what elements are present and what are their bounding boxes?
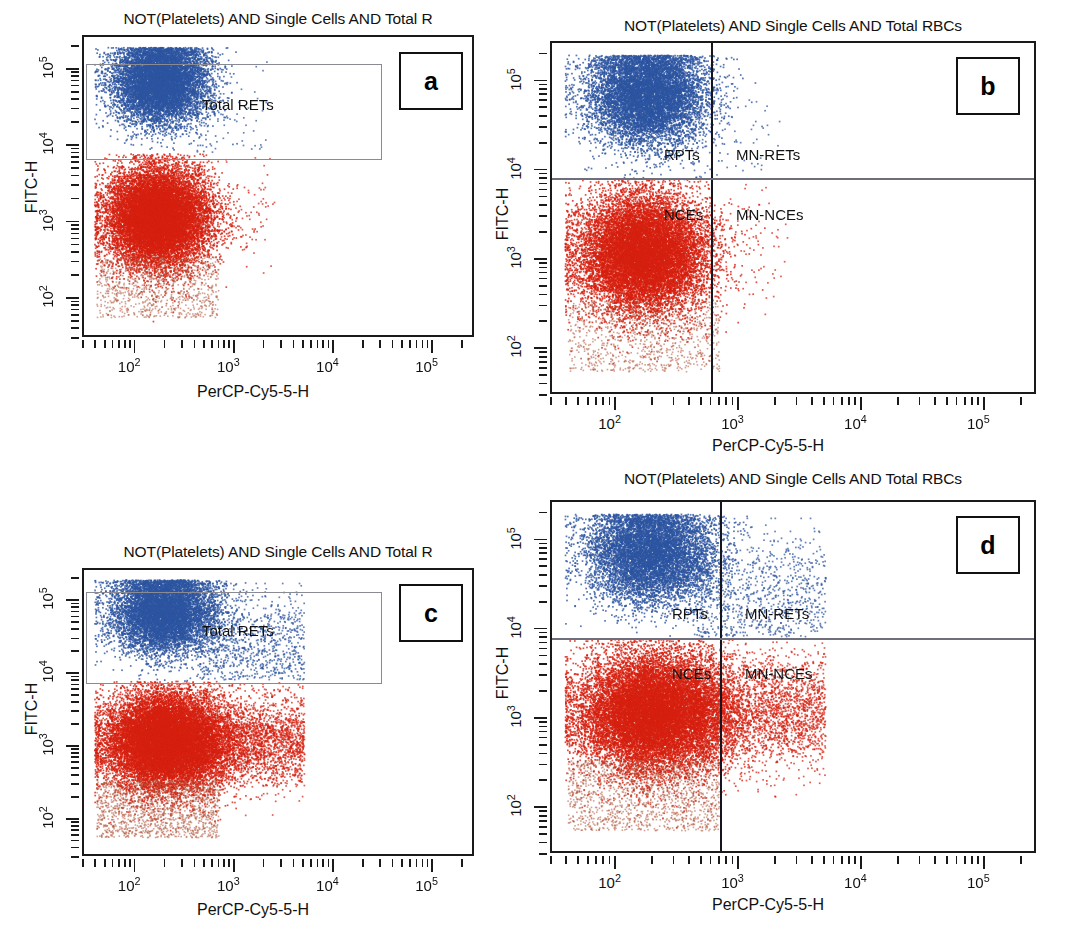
yaxis-tick-label: 105 [505,59,524,99]
xaxis-tick [860,397,862,410]
yaxis-tick [66,68,79,70]
panel-d-title: NOT(Platelets) AND Single Cells AND Tota… [550,470,1036,488]
xaxis-tick [223,340,225,348]
panel-d-quadrant-hline[interactable] [552,638,1034,640]
xaxis-tick [416,340,418,348]
xaxis-tick [587,856,589,864]
xaxis-tick [461,859,463,867]
panel-d-quadrant-vline[interactable] [720,502,722,851]
xaxis-tick [94,340,96,348]
yaxis-tick [71,783,79,785]
xaxis-tick [401,340,403,348]
yaxis-tick [539,726,547,728]
xaxis-tick-label: 104 [844,872,867,891]
yaxis-tick [71,224,79,226]
yaxis-tick [539,648,547,650]
xaxis-tick [263,859,265,867]
yaxis-tick [539,374,547,376]
yaxis-tick [539,810,547,812]
panel-d-badge: d [956,516,1020,574]
xaxis-tick [392,859,394,867]
xaxis-tick [956,397,958,405]
yaxis-tick [534,169,547,171]
xaxis-tick [971,397,973,405]
yaxis-tick [539,196,547,198]
yaxis-tick [539,177,547,179]
yaxis-tick [539,267,547,269]
yaxis-tick [71,161,79,163]
yaxis-tick-label: 102 [505,327,524,367]
yaxis-tick [539,53,547,55]
xaxis-tick [833,856,835,864]
yaxis-tick [71,75,79,77]
xaxis-tick [688,397,690,405]
yaxis-tick [539,543,547,545]
yaxis-tick [539,285,547,287]
yaxis-tick-label: 103 [37,725,56,765]
xaxis-tick [577,856,579,864]
xaxis-tick [609,397,611,405]
xaxis-tick [614,856,616,869]
panel-d-xaxis-label: PerCP-Cy5-5-H [712,896,824,914]
xaxis-tick [164,340,166,348]
yaxis-tick [539,272,547,274]
panel-c-badge: c [399,584,463,642]
panel-a-total-rets-gate-label: Total RETs [202,96,274,113]
xaxis-tick [322,859,324,867]
xaxis-tick [934,397,936,405]
panel-c-total-rets-gate-label: Total RETs [202,622,274,639]
yaxis-tick [71,825,79,827]
yaxis-tick [66,818,79,820]
yaxis-tick-label: 104 [505,607,524,647]
yaxis-tick [539,820,547,822]
yaxis-tick-label: 103 [37,200,56,240]
panel-c-title: NOT(Platelets) AND Single Cells AND Tota… [82,543,474,561]
yaxis-tick [539,189,547,191]
yaxis-tick [539,126,547,128]
xaxis-tick [431,340,433,353]
yaxis-tick [71,175,79,177]
xaxis-tick [317,859,319,867]
panel-b-quadrant-hline[interactable] [552,178,1034,180]
xaxis-tick [854,856,856,864]
xaxis-tick-label: 105 [967,413,990,432]
yaxis-tick [71,676,79,678]
xaxis-tick-label: 103 [217,875,240,894]
panel-b-quadrant-vline[interactable] [711,43,713,392]
yaxis-tick [539,642,547,644]
xaxis-tick [718,856,720,864]
yaxis-tick [539,320,547,322]
yaxis-tick [71,320,79,322]
xaxis-tick-label: 105 [967,872,990,891]
xaxis-tick [422,340,424,348]
xaxis-tick [112,340,114,348]
yaxis-tick [71,238,79,240]
xaxis-tick [946,856,948,864]
yaxis-tick [539,278,547,280]
yaxis-tick [539,231,547,233]
yaxis-tick [66,144,79,146]
yaxis-tick [71,679,79,681]
xaxis-tick [112,859,114,867]
yaxis-tick [71,840,79,842]
xaxis-tick-label: 104 [316,356,339,375]
xaxis-tick [854,397,856,405]
yaxis-tick [534,347,547,349]
yaxis-tick-label: 103 [505,238,524,278]
yaxis-tick [71,688,79,690]
xaxis-tick [860,856,862,869]
yaxis-tick [71,748,79,750]
yaxis-tick [534,806,547,808]
xaxis-tick [710,397,712,405]
yaxis-tick [539,737,547,739]
panel-c-xaxis-label: PerCP-Cy5-5-H [197,901,309,919]
panel-d-quadrant-label-nces: NCEs [672,665,711,682]
xaxis-tick [194,340,196,348]
yaxis-tick [539,294,547,296]
xaxis-tick [823,397,825,405]
xaxis-tick [1020,397,1022,405]
xaxis-tick [811,856,813,864]
xaxis-tick [651,856,653,864]
yaxis-tick [539,215,547,217]
xaxis-tick [118,340,120,348]
